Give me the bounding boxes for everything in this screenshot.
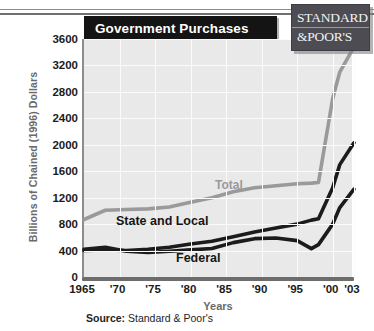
y-axis-tick-label: 3200 (38, 59, 78, 71)
source-label: Source: (86, 312, 125, 324)
x-axis-tick-label: '75 (145, 283, 161, 295)
gridline-horizontal (84, 198, 352, 199)
logo-line-poors: &POOR'S (292, 28, 369, 45)
gridline-vertical (333, 39, 334, 277)
series-label-total: Total (215, 178, 243, 192)
series-label-state-and-local: State and Local (116, 214, 208, 228)
y-axis-tick-label: 400 (38, 245, 78, 257)
chart-figure: Government Purchases STANDARD &POOR'S 04… (0, 0, 374, 331)
y-axis-ticks: 04008001200160020002400280032003600 (34, 39, 78, 277)
x-axis-tick-label: '80 (181, 283, 197, 295)
y-axis-tick-label: 1200 (38, 192, 78, 204)
source-note: Source: Standard & Poor's (86, 312, 213, 324)
x-axis-tick-label: '70 (110, 283, 126, 295)
page-title: Government Purchases (84, 21, 249, 36)
x-axis-tick-label: '85 (216, 283, 232, 295)
gridline-horizontal (84, 145, 352, 146)
logo-line-standard: STANDARD (292, 10, 369, 28)
gridline-vertical (354, 39, 355, 277)
gridline-vertical (191, 39, 192, 277)
y-axis-title: Billions of Chained (1996) Dollars (27, 39, 39, 275)
x-axis-tick-label: '03 (344, 283, 360, 295)
y-axis-tick-label: 3600 (38, 33, 78, 45)
y-axis-tick-label: 2400 (38, 112, 78, 124)
standard-and-poors-logo: STANDARD &POOR'S (291, 4, 370, 51)
y-axis-tick-label: 2000 (38, 139, 78, 151)
x-axis-tick-label: 1965 (69, 283, 95, 295)
source-value: Standard & Poor's (128, 312, 213, 324)
y-axis-tick-label: 0 (38, 271, 78, 283)
x-axis-title: Years (82, 300, 354, 312)
gridline-vertical (155, 39, 156, 277)
series-label-federal: Federal (176, 251, 220, 265)
y-axis-tick-label: 1600 (38, 165, 78, 177)
gridline-horizontal (84, 171, 352, 172)
x-axis-tick-label: '95 (287, 283, 303, 295)
gridline-vertical (226, 39, 227, 277)
gridline-horizontal (84, 92, 352, 93)
y-axis-tick-label: 2800 (38, 86, 78, 98)
x-axis-tick-label: '90 (252, 283, 268, 295)
y-axis-tick-label: 800 (38, 218, 78, 230)
chart-title-banner: Government Purchases (84, 16, 277, 41)
series-layer (84, 39, 354, 277)
gridline-horizontal (84, 65, 352, 66)
gridline-vertical (297, 39, 298, 277)
x-axis-tick-label: '00 (323, 283, 339, 295)
gridline-vertical (120, 39, 121, 277)
gridline-horizontal (84, 118, 352, 119)
plot-area (82, 39, 352, 277)
gridline-vertical (262, 39, 263, 277)
series-line-total (84, 47, 354, 220)
x-axis-line (82, 277, 354, 281)
x-axis-ticks: 1965'70'75'80'85'90'95'00'03 (82, 283, 354, 299)
